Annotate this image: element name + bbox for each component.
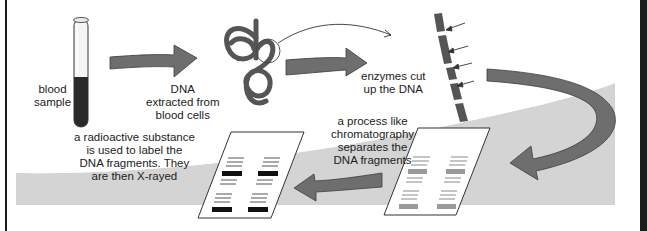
zoom-pointer-arrow [278,24,391,43]
label-line: DNA fragments [331,154,414,167]
label-line: are then X-rayed [74,170,195,183]
label-enzymes-cut: enzymes cut up the DNA [361,70,426,96]
label-chromatography: a process like chromatography separates … [331,115,414,167]
label-line: up the DNA [361,83,426,96]
label-radioactive-xray: a radioactive substance is used to label… [74,131,195,183]
diagram-artwork [16,13,631,219]
label-dna-extracted: DNA extracted from blood cells [146,83,220,122]
diagram-panel: blood sample DNA extracted from blood ce… [16,13,631,219]
label-line: DNA fragments. They [74,157,195,170]
label-line: chromatography [331,128,414,141]
label-line: enzymes cut [361,70,426,83]
label-line: blood cells [146,109,220,122]
right-frame-bar [640,0,647,231]
label-line: is used to label the [74,144,195,157]
label-line: separates the [331,141,414,154]
label-line: blood [34,83,71,96]
label-line: DNA [146,83,220,96]
label-line: a process like [331,115,414,128]
left-frame-rule [5,0,7,231]
test-tube-icon [74,18,89,128]
label-line: sample [34,96,71,109]
label-blood-sample: blood sample [34,83,71,109]
label-line: extracted from [146,96,220,109]
label-line: a radioactive substance [74,131,195,144]
arrow-2-icon [286,48,367,76]
